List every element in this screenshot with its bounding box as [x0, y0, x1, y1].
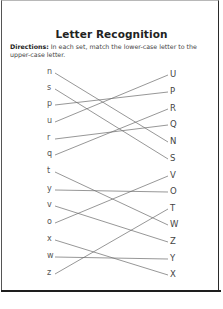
uppercase-letter-V: V [170, 171, 176, 179]
uppercase-letter-S: S [170, 154, 175, 162]
uppercase-letter-Y: Y [170, 254, 175, 262]
lowercase-letter-t: t [47, 167, 50, 175]
lowercase-letter-x: x [47, 235, 52, 243]
match-line-u-U [55, 75, 168, 122]
uppercase-letter-Z: Z [170, 237, 176, 245]
lowercase-letter-z: z [47, 269, 51, 277]
uppercase-letter-O: O [170, 187, 177, 195]
uppercase-letter-R: R [170, 104, 176, 112]
lowercase-letter-p: p [47, 100, 52, 108]
match-line-v-Z [55, 206, 168, 242]
match-line-t-W [55, 172, 168, 225]
matching-lines [0, 0, 223, 309]
match-line-y-O [55, 190, 168, 192]
lowercase-letter-v: v [47, 201, 52, 209]
match-line-o-V [55, 176, 168, 223]
uppercase-letter-X: X [170, 270, 176, 278]
uppercase-letter-Q: Q [170, 120, 177, 128]
lowercase-letter-w: w [47, 252, 54, 260]
uppercase-letter-P: P [170, 87, 175, 95]
uppercase-letter-W: W [170, 220, 178, 228]
match-line-z-T [55, 209, 168, 274]
lowercase-letter-s: s [47, 84, 51, 92]
uppercase-letter-N: N [170, 137, 176, 145]
uppercase-letter-U: U [170, 70, 176, 78]
lowercase-letter-o: o [47, 218, 52, 226]
lowercase-letter-n: n [47, 68, 52, 76]
lowercase-letter-y: y [47, 185, 52, 193]
uppercase-letter-T: T [170, 204, 175, 212]
lowercase-letter-r: r [47, 134, 50, 142]
lowercase-letter-q: q [47, 150, 52, 158]
match-line-s-S [55, 89, 168, 159]
lowercase-letter-u: u [47, 117, 52, 125]
